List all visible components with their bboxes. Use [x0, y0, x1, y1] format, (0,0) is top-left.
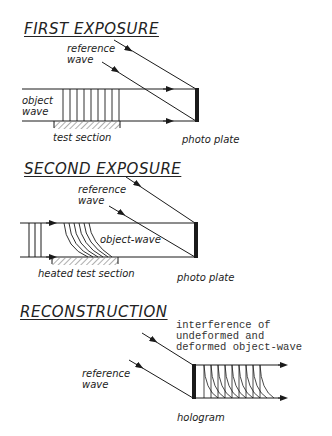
first-reference-wave-label: reference wave [67, 43, 115, 65]
reconstruction-reference-wave-label: reference wave [82, 368, 130, 390]
holographic-interferometry-diagram: FIRST EXPOSURE reference wave object wav… [0, 0, 332, 436]
second-reference-wave-label: reference wave [78, 184, 126, 206]
second-test-section-label: heated test section [38, 268, 135, 279]
first-test-section-label: test section [53, 132, 111, 143]
first-exposure-title: FIRST EXPOSURE [24, 20, 159, 38]
hologram-label: hologram [177, 412, 225, 423]
second-exposure-title: SECOND EXPOSURE [24, 160, 181, 178]
second-object-wave-label: object-wave [100, 234, 161, 245]
interference-fringes [204, 365, 274, 398]
first-photo-plate-label: photo plate [182, 134, 239, 145]
reconstruction-title: RECONSTRUCTION [20, 303, 168, 321]
diagram-drawing [0, 0, 332, 436]
plane-wavefronts [63, 89, 119, 121]
first-object-wave-label: object wave [22, 95, 53, 117]
photo-plate-2 [194, 222, 198, 258]
hologram-plate [192, 364, 196, 399]
photo-plate-1 [195, 88, 199, 122]
second-photo-plate-label: photo plate [177, 272, 234, 283]
interference-label: interference of undeformed and deformed … [176, 320, 302, 353]
